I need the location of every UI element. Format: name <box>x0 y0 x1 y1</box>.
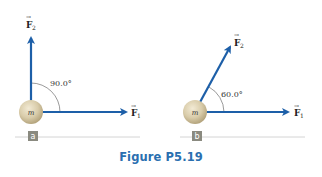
panel-b-f1-label: → F 1 <box>294 102 304 119</box>
svg-text:1: 1 <box>300 112 304 119</box>
svg-text:2: 2 <box>240 42 244 49</box>
panel-b-angle-label: 60.0° <box>221 90 243 99</box>
panel-a-label: a <box>31 132 36 141</box>
svg-text:1: 1 <box>137 112 141 119</box>
panel-b: m 60.0° → F 2 → F 1 b <box>180 31 305 141</box>
svg-text:2: 2 <box>32 24 36 31</box>
panel-a-mass-label: m <box>28 109 35 117</box>
panel-b-label: b <box>194 132 199 141</box>
vector-arrow-icon: → <box>26 13 31 20</box>
panel-b-f2-label: → F 2 <box>234 31 244 49</box>
figure-caption: Figure P5.19 <box>0 150 322 164</box>
panel-a: m 90.0° → F 2 → F 1 a <box>15 13 141 141</box>
panel-a-f2-label: → F 2 <box>26 13 36 31</box>
panel-a-angle-label: 90.0° <box>50 79 72 88</box>
panel-a-f1-label: → F 1 <box>131 102 141 119</box>
panel-b-mass-label: m <box>192 109 199 117</box>
vector-arrow-icon: → <box>234 31 239 38</box>
